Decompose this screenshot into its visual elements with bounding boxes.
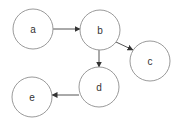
edge-b-c <box>116 42 133 50</box>
node-b: b <box>80 10 120 50</box>
node-label-a: a <box>30 24 36 35</box>
node-d: d <box>79 67 119 107</box>
node-label-c: c <box>148 56 153 67</box>
node-c: c <box>130 41 170 81</box>
node-e: e <box>12 77 52 117</box>
node-a: a <box>13 9 53 49</box>
graph-canvas: a b c d e <box>0 0 180 124</box>
node-label-e: e <box>29 92 35 103</box>
node-label-d: d <box>96 82 102 93</box>
node-label-b: b <box>97 25 103 36</box>
